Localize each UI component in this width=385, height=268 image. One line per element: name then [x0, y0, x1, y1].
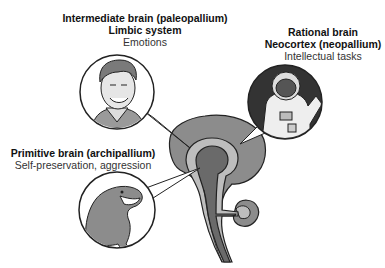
intermediate-function: Emotions [55, 36, 235, 48]
label-intermediate-brain: Intermediate brain (paleopallium) Limbic… [55, 12, 235, 48]
intermediate-subtitle: Limbic system [55, 24, 235, 36]
rational-subtitle: Neocortex (neopallium) [262, 38, 384, 50]
primitive-title: Primitive brain (archipallium) [8, 147, 158, 159]
intermediate-title: Intermediate brain (paleopallium) [55, 12, 235, 24]
label-primitive-brain: Primitive brain (archipallium) Self-pres… [8, 147, 158, 171]
lizard-illustration [79, 172, 155, 254]
human-face-illustration [80, 55, 154, 129]
pointer-primitive [146, 168, 200, 200]
astronaut-illustration [248, 65, 322, 140]
rational-title: Rational brain [262, 26, 384, 38]
label-rational-brain: Rational brain Neocortex (neopallium) In… [262, 26, 384, 62]
primitive-function: Self-preservation, aggression [8, 159, 158, 171]
rational-function: Intellectual tasks [262, 50, 384, 62]
